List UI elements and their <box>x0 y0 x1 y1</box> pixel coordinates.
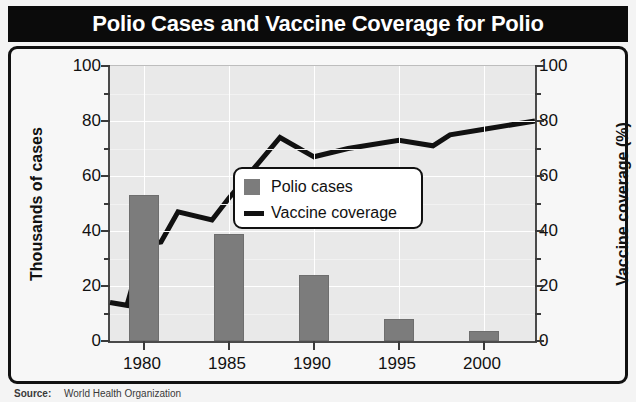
bar <box>299 275 329 341</box>
axis-tick <box>101 175 110 177</box>
page-title: Polio Cases and Vaccine Coverage for Pol… <box>92 11 543 37</box>
gridline <box>110 149 535 150</box>
left-tick-label: 0 <box>92 332 101 349</box>
axis-tick <box>535 93 541 95</box>
left-tick-label: 60 <box>82 167 101 184</box>
x-axis-tick <box>143 341 145 350</box>
legend-item-polio-cases: Polio cases <box>244 174 412 200</box>
x-tick-label: 1990 <box>293 354 331 374</box>
x-tick-label: 1980 <box>123 354 161 374</box>
gridline <box>110 259 535 260</box>
chart-frame: Thousands of cases Vaccine coverage (%) … <box>8 46 628 384</box>
x-axis-tick <box>228 341 230 350</box>
axis-tick <box>535 175 544 177</box>
bar <box>214 234 244 341</box>
left-tick-label: 40 <box>82 222 101 239</box>
axis-tick <box>535 148 541 150</box>
legend-label: Polio cases <box>271 178 353 196</box>
axis-tick <box>101 65 110 67</box>
source-text: World Health Organization <box>64 388 181 399</box>
source-label: Source: <box>14 388 51 399</box>
x-tick-label: 1995 <box>378 354 416 374</box>
chart-legend: Polio cases Vaccine coverage <box>233 167 423 229</box>
axis-tick <box>101 230 110 232</box>
left-tick-label: 80 <box>82 112 101 129</box>
x-axis-tick <box>483 341 485 350</box>
bar <box>384 319 414 341</box>
axis-tick <box>535 340 544 342</box>
chart-title-bar: Polio Cases and Vaccine Coverage for Pol… <box>8 6 628 42</box>
axis-tick <box>535 313 541 315</box>
bar-swatch-icon <box>244 179 260 195</box>
axis-tick <box>535 65 544 67</box>
axis-tick <box>104 203 110 205</box>
left-tick-label: 100 <box>73 57 101 74</box>
x-axis-tick <box>398 341 400 350</box>
gridline <box>110 94 535 95</box>
left-axis-title: Thousands of cases <box>28 94 46 314</box>
gridline <box>110 121 535 122</box>
axis-tick <box>535 120 544 122</box>
axis-tick <box>535 258 541 260</box>
axis-tick <box>535 203 541 205</box>
gridline <box>110 231 535 232</box>
bar <box>129 195 159 341</box>
x-axis-tick <box>313 341 315 350</box>
legend-label: Vaccine coverage <box>271 204 397 222</box>
axis-tick <box>104 148 110 150</box>
axis-tick <box>101 285 110 287</box>
axis-tick <box>535 285 544 287</box>
axis-tick <box>104 93 110 95</box>
bar <box>469 331 499 341</box>
axis-tick <box>104 258 110 260</box>
axis-tick <box>101 340 110 342</box>
axis-tick <box>104 313 110 315</box>
left-tick-label: 20 <box>82 277 101 294</box>
right-axis-title: Vaccine coverage (%) <box>614 94 632 314</box>
gridline-vertical <box>484 66 485 341</box>
x-tick-label: 2000 <box>463 354 501 374</box>
legend-item-vaccine-coverage: Vaccine coverage <box>244 200 412 226</box>
line-swatch-icon <box>244 211 264 216</box>
axis-tick <box>101 120 110 122</box>
right-axis-tick-labels: 0 20 40 60 80 100 <box>539 49 579 381</box>
chart-page: Polio Cases and Vaccine Coverage for Pol… <box>0 0 636 402</box>
axis-tick <box>535 230 544 232</box>
x-tick-label: 1985 <box>208 354 246 374</box>
left-axis-tick-labels: 0 20 40 60 80 100 <box>61 49 101 381</box>
source-note: Source: World Health Organization <box>14 388 181 399</box>
